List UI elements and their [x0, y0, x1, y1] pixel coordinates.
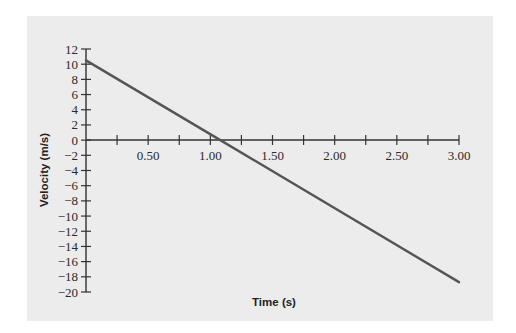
velocity-time-chart: 121086420−2−4−6−8−10−12−14−16−18−20 0.50… [0, 0, 516, 333]
y-tick-label: −2 [64, 148, 78, 163]
velocity-line [86, 60, 459, 282]
y-tick-label: 4 [72, 102, 79, 117]
y-tick-label: −4 [64, 163, 78, 178]
x-tick-label: 2.50 [385, 148, 408, 163]
x-tick-label: 1.50 [261, 148, 284, 163]
y-tick-label: 6 [72, 87, 79, 102]
y-tick-label: 10 [65, 57, 78, 72]
y-tick-label: −20 [58, 285, 78, 300]
y-tick-label: −10 [58, 209, 78, 224]
y-tick-label: −6 [64, 178, 78, 193]
x-tick-label: 0.50 [137, 148, 160, 163]
x-tick-label: 2.00 [323, 148, 346, 163]
y-tick-label: 8 [72, 72, 79, 87]
data-series [86, 60, 459, 282]
x-axis-title: Time (s) [252, 296, 296, 308]
y-axis: 121086420−2−4−6−8−10−12−14−16−18−20 [58, 42, 91, 300]
y-tick-label: −12 [58, 224, 78, 239]
y-tick-label: −16 [58, 254, 79, 269]
x-axis: 0.501.001.502.002.503.00 [86, 135, 470, 163]
y-axis-title: Velocity (m/s) [38, 133, 50, 207]
x-tick-label: 3.00 [448, 148, 471, 163]
y-tick-label: 0 [72, 133, 79, 148]
y-tick-label: −8 [64, 193, 78, 208]
y-tick-label: 12 [65, 42, 78, 57]
y-tick-label: 2 [72, 117, 79, 132]
x-tick-label: 1.00 [199, 148, 222, 163]
y-tick-label: −18 [58, 269, 78, 284]
y-tick-label: −14 [58, 239, 79, 254]
